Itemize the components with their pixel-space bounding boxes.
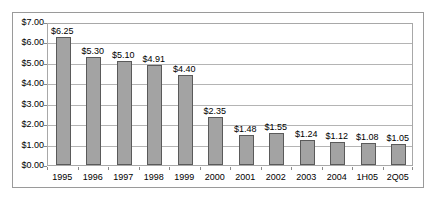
x-axis-tick-label: 1H05 <box>352 173 383 182</box>
x-axis-tick-mark <box>200 167 201 170</box>
bar[interactable] <box>147 65 162 165</box>
gridline <box>48 146 412 147</box>
x-axis-tick-mark <box>108 167 109 170</box>
bar[interactable] <box>361 143 376 165</box>
chart-frame: $0.00$1.00$2.00$3.00$4.00$5.00$6.00$7.00… <box>12 12 424 188</box>
x-axis-tick-label: 1997 <box>108 173 139 182</box>
bar[interactable] <box>178 75 193 165</box>
x-axis: 1995199619971998199920002001200220032004… <box>47 167 413 187</box>
x-axis-tick-label: 2000 <box>200 173 231 182</box>
bar[interactable] <box>86 57 101 165</box>
y-axis-tick-label: $7.00 <box>13 18 47 27</box>
bar-value-label: $1.05 <box>381 134 415 143</box>
bar-value-label: $1.48 <box>228 125 262 134</box>
x-axis-tick-label: 1999 <box>169 173 200 182</box>
x-axis-tick-mark <box>352 167 353 170</box>
bar-value-label: $1.24 <box>289 130 323 139</box>
x-axis-tick-label: 2001 <box>230 173 261 182</box>
bar[interactable] <box>117 61 132 165</box>
bar-value-label: $5.10 <box>106 51 140 60</box>
bar-value-label: $1.55 <box>259 123 293 132</box>
y-axis-tick-label: $2.00 <box>13 120 47 129</box>
x-axis-tick-label: 2003 <box>291 173 322 182</box>
x-axis-tick-label: 1995 <box>47 173 78 182</box>
bar[interactable] <box>239 135 254 165</box>
plot-area <box>47 23 413 166</box>
y-axis-tick-label: $5.00 <box>13 59 47 68</box>
bar[interactable] <box>269 133 284 165</box>
y-axis-tick-label: $1.00 <box>13 141 47 150</box>
gridline <box>48 84 412 85</box>
bar-value-label: $1.08 <box>350 133 384 142</box>
gridline <box>48 64 412 65</box>
x-axis-tick-mark <box>230 167 231 170</box>
x-axis-tick-mark <box>139 167 140 170</box>
x-axis-tick-label: 2002 <box>261 173 292 182</box>
bar-value-label: $5.30 <box>76 47 110 56</box>
bar-value-label: $4.91 <box>137 55 171 64</box>
x-axis-tick-label: 2004 <box>322 173 353 182</box>
x-axis-tick-label: 2Q05 <box>383 173 414 182</box>
y-axis-tick-label: $4.00 <box>13 79 47 88</box>
bar-value-label: $1.12 <box>320 132 354 141</box>
bar-value-label: $4.40 <box>167 65 201 74</box>
x-axis-tick-mark <box>322 167 323 170</box>
x-axis-tick-mark <box>47 167 48 170</box>
x-axis-tick-mark <box>383 167 384 170</box>
bar[interactable] <box>300 140 315 165</box>
x-axis-tick-label: 1996 <box>78 173 109 182</box>
y-axis: $0.00$1.00$2.00$3.00$4.00$5.00$6.00$7.00 <box>13 23 47 166</box>
x-axis-tick-mark <box>261 167 262 170</box>
bar[interactable] <box>330 142 345 165</box>
x-axis-tick-mark <box>169 167 170 170</box>
bar-value-label: $2.35 <box>198 107 232 116</box>
bar-value-label: $6.25 <box>45 27 79 36</box>
bar[interactable] <box>56 37 71 165</box>
bar[interactable] <box>208 117 223 165</box>
y-axis-tick-label: $3.00 <box>13 100 47 109</box>
y-axis-tick-label: $6.00 <box>13 38 47 47</box>
y-axis-tick-label: $0.00 <box>13 161 47 170</box>
x-axis-tick-mark <box>291 167 292 170</box>
x-axis-tick-mark <box>78 167 79 170</box>
gridline <box>48 105 412 106</box>
gridline <box>48 43 412 44</box>
x-axis-tick-label: 1998 <box>139 173 170 182</box>
x-axis-tick-mark <box>412 167 413 170</box>
bar[interactable] <box>391 144 406 165</box>
